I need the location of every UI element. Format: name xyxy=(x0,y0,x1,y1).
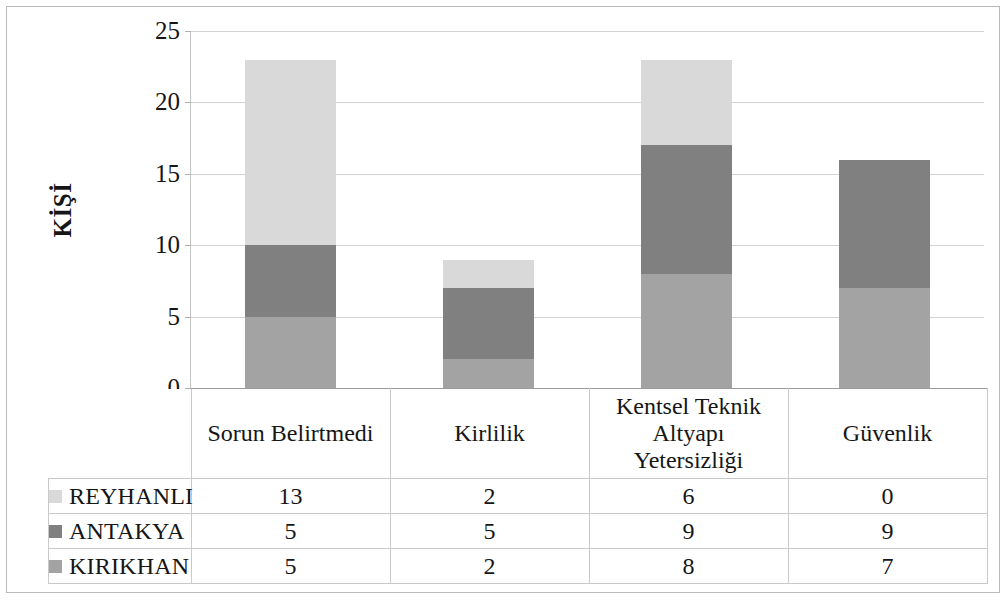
bar-segment-kirikhan[interactable] xyxy=(641,274,732,388)
bar-group-0 xyxy=(191,31,389,388)
table-cell-r1-c0: 5 xyxy=(191,514,390,549)
table-cell-r1-c2: 9 xyxy=(589,514,788,549)
category-header-line: Altyapı xyxy=(653,420,725,446)
table-cell-r1-c1: 5 xyxy=(390,514,589,549)
bar-segment-reyhanli[interactable] xyxy=(443,260,534,289)
chart-data-table: Sorun BelirtmediKirlilikKentsel TeknikAl… xyxy=(48,388,988,584)
bar-segment-kirikhan[interactable] xyxy=(443,359,534,388)
bar-segment-kirikhan[interactable] xyxy=(839,288,930,388)
bar-segment-reyhanli[interactable] xyxy=(641,60,732,146)
category-header-0: Sorun Belirtmedi xyxy=(191,389,390,479)
category-header-line: Sorun Belirtmedi xyxy=(208,420,374,446)
y-tick-label-20: 20 xyxy=(132,89,180,114)
bar-segment-antakya[interactable] xyxy=(443,288,534,359)
bar-segment-kirikhan[interactable] xyxy=(245,317,336,388)
category-header-line: Kirlilik xyxy=(454,420,525,446)
category-header-3: Güvenlik xyxy=(788,389,987,479)
bar-group-1 xyxy=(389,31,587,388)
category-header-line: Kentsel Teknik xyxy=(616,393,761,419)
table-cell-r0-c1: 2 xyxy=(390,479,589,514)
table-body: REYHANLI13260ANTAKYA5599KIRIKHAN5287 xyxy=(49,479,988,584)
category-header-line: Güvenlik xyxy=(843,420,932,446)
table-row: KIRIKHAN5287 xyxy=(49,549,988,584)
legend-label-text: REYHANLI xyxy=(69,483,193,509)
table-header-row: Sorun BelirtmediKirlilikKentsel TeknikAl… xyxy=(49,389,988,479)
y-tick-label-5: 5 xyxy=(132,304,180,329)
table-cell-r2-c3: 7 xyxy=(788,549,987,584)
legend-label-text: KIRIKHAN xyxy=(69,553,189,579)
bar-segment-antakya[interactable] xyxy=(245,245,336,316)
legend-swatch-icon xyxy=(49,560,62,573)
stacked-bar[interactable] xyxy=(839,160,930,388)
chart-data-table-wrapper: Sorun BelirtmediKirlilikKentsel TeknikAl… xyxy=(48,388,983,580)
plot-area xyxy=(190,31,983,388)
legend-row-label-kirikhan: KIRIKHAN xyxy=(49,549,192,584)
table-cell-r2-c0: 5 xyxy=(191,549,390,584)
legend-row-label-antakya: ANTAKYA xyxy=(49,514,192,549)
bar-segment-reyhanli[interactable] xyxy=(245,60,336,246)
table-cell-r0-c0: 13 xyxy=(191,479,390,514)
y-tick-label-10: 10 xyxy=(132,232,180,257)
stacked-bar[interactable] xyxy=(641,60,732,388)
header-corner-blank xyxy=(49,389,192,479)
table-cell-r0-c2: 6 xyxy=(589,479,788,514)
stacked-bar[interactable] xyxy=(245,60,336,388)
stacked-bar-chart-figure: KİŞİ 2520151050 Sorun BelirtmediKirlilik… xyxy=(0,0,1007,604)
legend-swatch-icon xyxy=(49,490,62,503)
category-header-line: Yetersizliği xyxy=(634,447,744,473)
y-tick-label-15: 15 xyxy=(132,161,180,186)
table-cell-r0-c3: 0 xyxy=(788,479,987,514)
bar-group-2 xyxy=(588,31,786,388)
table-header: Sorun BelirtmediKirlilikKentsel TeknikAl… xyxy=(49,389,988,479)
bar-segment-antakya[interactable] xyxy=(839,160,930,289)
category-header-2: Kentsel TeknikAltyapıYetersizliği xyxy=(589,389,788,479)
table-row: REYHANLI13260 xyxy=(49,479,988,514)
bar-segment-antakya[interactable] xyxy=(641,145,732,274)
y-axis-title: KİŞİ xyxy=(3,165,123,255)
stacked-bar[interactable] xyxy=(443,259,534,388)
y-tick-label-25: 25 xyxy=(132,18,180,43)
table-cell-r1-c3: 9 xyxy=(788,514,987,549)
bar-group-3 xyxy=(786,31,984,388)
table-row: ANTAKYA5599 xyxy=(49,514,988,549)
legend-label-text: ANTAKYA xyxy=(69,518,184,544)
legend-row-label-reyhanli: REYHANLI xyxy=(49,479,192,514)
legend-swatch-icon xyxy=(49,525,62,538)
table-cell-r2-c1: 2 xyxy=(390,549,589,584)
category-header-1: Kirlilik xyxy=(390,389,589,479)
table-cell-r2-c2: 8 xyxy=(589,549,788,584)
